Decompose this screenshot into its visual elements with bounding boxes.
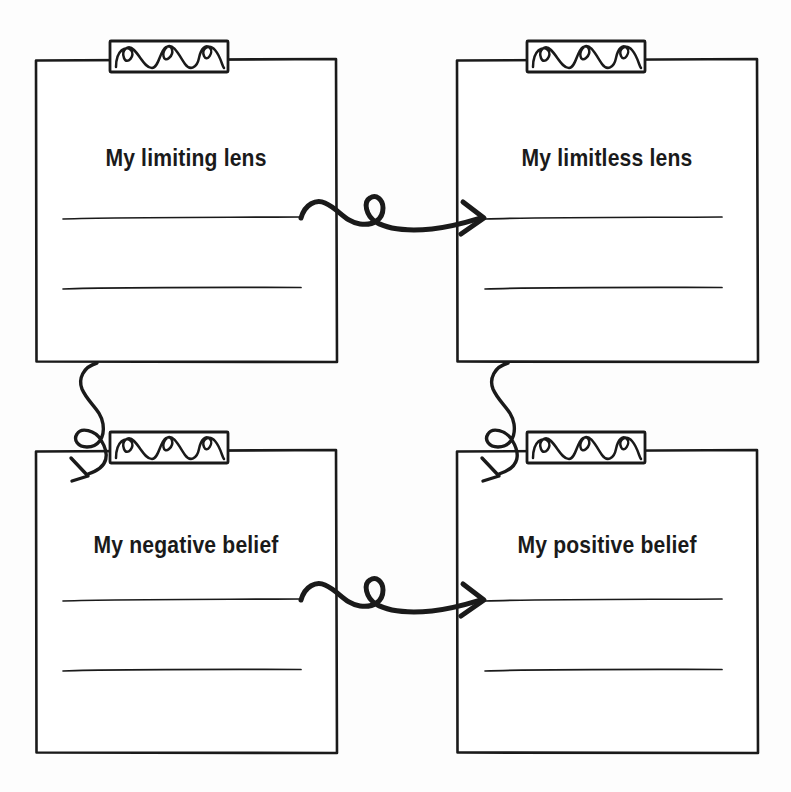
card-hit-limiting-lens[interactable] (36, 59, 338, 363)
worksheet-canvas: My limiting lens My limitless lens My ne… (0, 0, 791, 792)
card-hit-negative-belief[interactable] (36, 450, 338, 754)
card-hit-limitless-lens[interactable] (457, 59, 759, 363)
card-hit-positive-belief[interactable] (457, 450, 759, 754)
